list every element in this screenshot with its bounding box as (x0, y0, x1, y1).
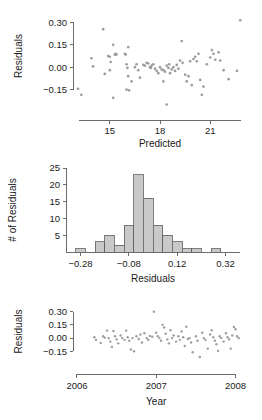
x-axis-title: Predicted (139, 138, 181, 149)
data-point (92, 65, 95, 68)
data-point (127, 75, 130, 78)
x-tick-label: 21 (205, 125, 216, 136)
data-point (95, 339, 97, 341)
data-point (172, 334, 174, 336)
data-point (165, 64, 168, 67)
histogram-bar (76, 249, 86, 252)
data-point (207, 347, 209, 349)
data-point (236, 70, 239, 73)
data-point (222, 69, 225, 72)
data-point (225, 332, 227, 334)
data-point (125, 88, 128, 91)
data-point (214, 58, 217, 61)
data-point (117, 342, 119, 344)
data-point (114, 335, 116, 337)
data-point (215, 343, 217, 345)
data-point (233, 326, 235, 328)
data-point (214, 340, 216, 342)
data-point (125, 63, 128, 66)
histogram-bar (95, 242, 105, 252)
data-point (151, 336, 153, 338)
data-point (107, 337, 109, 339)
data-point (180, 40, 183, 43)
y-tick-label: 0.00 (49, 332, 68, 343)
scatter-plot-residuals-vs-year: −0.150.000.150.30200620072008YearResidua… (0, 295, 262, 420)
data-point (209, 56, 212, 59)
data-point (157, 72, 160, 75)
data-point (93, 336, 95, 338)
data-point (239, 19, 242, 22)
data-point (179, 59, 182, 62)
data-point (137, 69, 140, 72)
data-point (128, 340, 130, 342)
residual-diagnostics-figure: −0.150.000.150.30151821PredictedResidual… (0, 0, 262, 420)
data-point (165, 332, 167, 334)
data-point (228, 338, 230, 340)
data-point (185, 325, 187, 327)
y-tick-label: 0.15 (49, 319, 68, 330)
data-point (102, 28, 105, 31)
data-point (155, 70, 158, 73)
data-point (147, 339, 149, 341)
data-point (199, 79, 202, 82)
data-point (154, 67, 157, 70)
data-point (188, 337, 190, 339)
data-point (180, 330, 182, 332)
data-point (106, 329, 108, 331)
data-point (119, 334, 121, 336)
data-point (184, 345, 186, 347)
histogram-bar (134, 175, 144, 252)
histogram-bars-group (76, 175, 221, 252)
data-point (192, 58, 195, 61)
histogram-bar (192, 249, 202, 252)
data-point (159, 66, 162, 69)
data-point (177, 335, 179, 337)
data-point (179, 339, 181, 341)
data-point (169, 329, 171, 331)
data-point (202, 85, 205, 88)
histogram-bar (153, 225, 163, 252)
data-point (130, 348, 132, 350)
data-point (123, 339, 125, 341)
data-point (111, 346, 113, 348)
data-point (90, 57, 93, 60)
x-tick-label: 2006 (66, 380, 87, 391)
data-point (211, 329, 213, 331)
data-point (109, 340, 111, 342)
y-tick-label: 5 (55, 230, 60, 241)
y-axis-title: Residuals (13, 34, 24, 78)
data-point (143, 332, 145, 334)
data-point (212, 336, 214, 338)
data-point (162, 80, 165, 83)
y-tick-label: −0.15 (43, 346, 67, 357)
y-axis-title: # of Residuals (7, 178, 18, 241)
data-point (155, 332, 157, 334)
data-point (169, 72, 172, 75)
data-point (222, 340, 224, 342)
data-point (189, 60, 192, 63)
data-point (164, 70, 167, 73)
y-axis-title: Residuals (13, 310, 24, 354)
histogram-bar (172, 242, 182, 252)
data-point (170, 68, 173, 71)
data-point (139, 76, 142, 79)
data-point (80, 93, 83, 96)
y-tick-label: 25 (49, 162, 60, 173)
data-point (149, 335, 151, 337)
data-point (165, 103, 168, 106)
histogram-of-residuals: 510152025−0.28−0.080.120.32Residuals# of… (0, 150, 262, 295)
data-point (112, 43, 115, 46)
data-point (108, 55, 111, 58)
histogram-bar (211, 249, 221, 252)
data-point (231, 334, 233, 336)
data-point (109, 61, 112, 64)
data-point (112, 96, 115, 99)
histogram-bar (105, 235, 115, 252)
histogram-bar (182, 249, 192, 252)
data-point (115, 338, 117, 340)
data-point (134, 66, 137, 69)
data-point (160, 340, 162, 342)
data-point (212, 52, 215, 55)
data-point (103, 73, 106, 76)
data-point (217, 51, 220, 54)
